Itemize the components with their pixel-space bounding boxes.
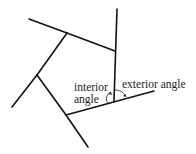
exterior-label: exterior angle bbox=[122, 78, 186, 90]
polygon-angle-diagram: interior angle exterior angle bbox=[0, 0, 196, 154]
extended-edge-bottom-left bbox=[66, 115, 88, 147]
extended-edge-left bbox=[12, 75, 37, 107]
edge-right-extended bbox=[114, 9, 117, 101]
edge-lower-left bbox=[37, 75, 66, 115]
polygon-figure bbox=[0, 0, 196, 154]
interior-label-line1: interior bbox=[74, 81, 108, 93]
edge-upper-left bbox=[37, 33, 67, 75]
interior-label-line2: angle bbox=[74, 93, 99, 105]
edge-top bbox=[67, 33, 115, 51]
extended-edge-top bbox=[29, 19, 67, 33]
